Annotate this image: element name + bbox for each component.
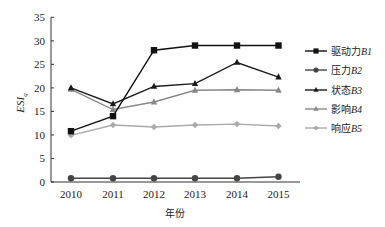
- plot-lines: [68, 42, 282, 181]
- x-axis-title: 年份: [165, 207, 185, 219]
- legend-label: 影响B4: [331, 103, 362, 115]
- y-tick-label: 30: [34, 35, 46, 47]
- x-tick-label: 2012: [143, 188, 165, 200]
- triangle-marker: [68, 84, 74, 90]
- circle-marker: [313, 67, 318, 72]
- series-b5: [68, 121, 282, 139]
- x-tick-label: 2014: [226, 188, 249, 200]
- y-axis-title: ESIq: [14, 93, 29, 114]
- legend-label: 驱动力B1: [331, 45, 372, 57]
- y-tick-label: 5: [40, 152, 46, 164]
- y-tick-label: 15: [34, 105, 46, 117]
- square-marker: [151, 47, 157, 53]
- square-marker: [68, 128, 74, 134]
- legend-label: 压力B2: [331, 64, 362, 76]
- diamond-marker: [192, 122, 198, 128]
- axes: 05101520253035201020112012201320142015年份…: [14, 11, 300, 219]
- series-line: [71, 62, 279, 103]
- y-tick-label: 25: [34, 58, 46, 70]
- legend-label: 状态B3: [331, 84, 362, 96]
- x-tick-label: 2015: [268, 188, 291, 200]
- y-tick-label: 0: [40, 176, 46, 188]
- x-tick-label: 2011: [102, 188, 124, 200]
- legend: 驱动力B1压力B2状态B3影响B4响应B5: [305, 45, 372, 134]
- circle-marker: [68, 175, 74, 181]
- x-tick-label: 2010: [60, 188, 83, 200]
- square-marker: [110, 113, 116, 119]
- series-line: [71, 124, 279, 135]
- x-tick-label: 2013: [184, 188, 207, 200]
- square-marker: [192, 42, 198, 48]
- square-marker: [234, 42, 240, 48]
- series-b1: [68, 42, 282, 134]
- circle-marker: [192, 175, 198, 181]
- square-marker: [275, 42, 281, 48]
- legend-item-b1: 驱动力B1: [305, 45, 372, 57]
- circle-marker: [275, 174, 281, 180]
- series-line: [71, 46, 279, 132]
- triangle-marker: [234, 59, 240, 65]
- circle-marker: [234, 175, 240, 181]
- diamond-marker: [275, 123, 281, 129]
- legend-label: 响应B5: [331, 122, 362, 134]
- y-tick-label: 20: [34, 82, 46, 94]
- diamond-marker: [110, 122, 116, 128]
- diamond-marker: [234, 121, 240, 127]
- series-b3: [68, 59, 282, 107]
- line-chart: 05101520253035201020112012201320142015年份…: [0, 0, 385, 227]
- circle-marker: [110, 175, 116, 181]
- legend-item-b3: 状态B3: [305, 84, 362, 96]
- series-line: [71, 177, 279, 178]
- series-b2: [68, 174, 282, 182]
- legend-item-b4: 影响B4: [305, 103, 362, 115]
- legend-item-b2: 压力B2: [305, 64, 362, 76]
- square-marker: [313, 48, 318, 53]
- legend-item-b5: 响应B5: [305, 122, 362, 134]
- diamond-marker: [151, 124, 157, 130]
- y-tick-label: 35: [34, 11, 46, 23]
- circle-marker: [151, 175, 157, 181]
- y-tick-label: 10: [34, 129, 46, 141]
- diamond-marker: [313, 125, 318, 130]
